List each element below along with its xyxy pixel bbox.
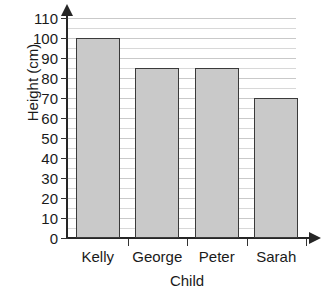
x-axis-tick xyxy=(187,239,188,246)
y-axis-tick-label: 90 xyxy=(18,51,58,66)
y-axis-tick-label: 20 xyxy=(18,191,58,206)
y-axis-tick-label: 0 xyxy=(18,231,58,246)
y-axis-line xyxy=(66,14,68,238)
y-axis-tick xyxy=(61,118,68,119)
y-axis-tick xyxy=(61,18,68,19)
y-axis-tick-label: 50 xyxy=(18,131,58,146)
x-axis-title: Child xyxy=(68,272,306,289)
y-axis-tick-label: 60 xyxy=(18,111,58,126)
y-axis-tick xyxy=(61,38,68,39)
y-axis-tick xyxy=(61,158,68,159)
gridline xyxy=(68,28,296,29)
bar xyxy=(76,38,120,238)
y-axis-tick-label: 80 xyxy=(18,71,58,86)
y-axis-tick xyxy=(61,198,68,199)
x-axis-tick xyxy=(128,239,129,246)
y-axis-tick-label: 70 xyxy=(18,91,58,106)
x-axis-category-label: Peter xyxy=(187,248,247,265)
y-axis-tick-label: 30 xyxy=(18,171,58,186)
y-axis-tick xyxy=(61,78,68,79)
x-axis-category-label: Kelly xyxy=(68,248,128,265)
y-axis-tick xyxy=(61,98,68,99)
y-axis-tick xyxy=(61,238,68,239)
y-axis-tick xyxy=(61,218,68,219)
y-axis-tick-label: 40 xyxy=(18,151,58,166)
bar xyxy=(135,68,179,238)
y-axis-tick xyxy=(61,138,68,139)
y-axis-up-arrow-icon xyxy=(61,4,73,16)
y-axis-tick-label: 110 xyxy=(18,11,58,26)
y-axis-tick xyxy=(61,178,68,179)
x-axis-category-label: Sarah xyxy=(247,248,307,265)
x-axis-right-arrow-icon xyxy=(309,232,321,244)
bar xyxy=(254,98,298,238)
y-axis-tick xyxy=(61,58,68,59)
bar-chart-figure: Height (cm) 0102030405060708090100110Kel… xyxy=(0,0,326,298)
bar xyxy=(195,68,239,238)
x-axis-tick xyxy=(247,239,248,246)
x-axis-tick xyxy=(306,239,307,246)
gridline xyxy=(68,18,296,19)
y-axis-tick-label: 100 xyxy=(18,31,58,46)
y-axis-tick-label: 10 xyxy=(18,211,58,226)
x-axis-category-label: George xyxy=(128,248,188,265)
